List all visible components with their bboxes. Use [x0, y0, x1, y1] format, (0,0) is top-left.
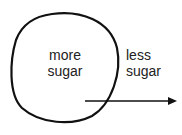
inside-label-line2: sugar	[40, 63, 90, 79]
outside-label-line1: less	[126, 47, 176, 63]
inside-label-line1: more	[40, 47, 90, 63]
inside-label: more sugar	[40, 47, 90, 79]
outside-label-line2: sugar	[126, 63, 176, 79]
outside-label: less sugar	[126, 47, 176, 79]
arrow-head-icon	[168, 97, 177, 105]
